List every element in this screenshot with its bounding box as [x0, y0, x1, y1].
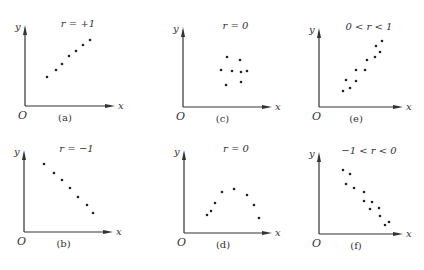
data-point: [43, 163, 46, 166]
panel-f: xyO−1 < r < 0(f): [308, 145, 412, 251]
x-axis-label: x: [118, 100, 124, 111]
panel-caption: (a): [58, 112, 72, 123]
scatter-diagram: xyOr = +1(a)xyOr = 0(c)xyO0 < r < 1(e)xy…: [0, 0, 424, 270]
data-point: [206, 214, 209, 217]
origin-label: O: [312, 110, 321, 123]
y-axis-label: y: [173, 146, 180, 157]
data-point: [239, 59, 242, 62]
panel-c: xyOr = 0(c): [172, 20, 281, 124]
x-axis-label: x: [275, 227, 281, 238]
y-axis-label: y: [14, 21, 21, 32]
data-point: [379, 51, 382, 54]
y-arrow-icon: [317, 152, 321, 162]
data-point: [89, 39, 92, 42]
data-point: [342, 90, 345, 93]
data-point: [342, 169, 345, 172]
data-point: [374, 56, 377, 59]
data-point: [240, 71, 243, 74]
data-point: [349, 173, 352, 176]
data-point: [246, 194, 249, 197]
data-point: [388, 221, 391, 224]
y-arrow-icon: [23, 25, 27, 35]
data-point: [46, 76, 49, 79]
data-point: [220, 69, 223, 72]
data-point: [53, 172, 56, 175]
origin-label: O: [17, 235, 26, 248]
panel-caption: (f): [350, 240, 362, 251]
data-point: [61, 63, 64, 66]
data-point: [69, 187, 72, 190]
data-point: [253, 204, 256, 207]
x-axis-label: x: [275, 101, 281, 112]
panel-d: xyOr = 0(d): [173, 143, 281, 250]
data-point: [246, 70, 249, 73]
y-arrow-icon: [182, 150, 186, 160]
data-point: [231, 70, 234, 73]
x-axis-label: x: [406, 228, 412, 239]
correlation-annotation: 0 < r < 1: [346, 21, 393, 32]
data-point: [366, 59, 369, 62]
correlation-annotation: r = 0: [223, 20, 250, 31]
data-point: [349, 87, 352, 90]
data-point: [384, 224, 387, 227]
panel-caption: (e): [349, 113, 363, 124]
x-arrow-icon: [393, 232, 403, 236]
panel-caption: (d): [216, 239, 230, 250]
data-point: [77, 196, 80, 199]
data-point: [375, 45, 378, 48]
y-arrow-icon: [22, 150, 26, 160]
data-point: [345, 183, 348, 186]
data-point: [225, 84, 228, 87]
x-arrow-icon: [262, 231, 272, 235]
x-arrow-icon: [393, 105, 403, 109]
correlation-annotation: r = 0: [223, 143, 250, 154]
data-point: [61, 179, 64, 182]
panel-a: xyOr = +1(a): [14, 18, 124, 123]
data-point: [233, 188, 236, 191]
x-arrow-icon: [103, 230, 113, 234]
correlation-annotation: r = −1: [59, 143, 93, 154]
panel-caption: (c): [216, 113, 230, 124]
data-point: [258, 217, 261, 220]
x-arrow-icon: [262, 105, 272, 109]
origin-label: O: [18, 109, 27, 122]
data-point: [371, 201, 374, 204]
data-point: [214, 202, 217, 205]
origin-label: O: [176, 110, 185, 123]
y-axis-label: y: [308, 148, 315, 159]
y-axis-label: y: [308, 24, 315, 35]
data-point: [355, 80, 358, 83]
panel-caption: (b): [56, 238, 70, 249]
origin-label: O: [312, 237, 321, 250]
x-arrow-icon: [105, 104, 115, 108]
data-point: [378, 207, 381, 210]
data-point: [210, 210, 213, 213]
y-axis-label: y: [172, 23, 179, 34]
data-point: [226, 56, 229, 59]
x-axis-label: x: [116, 226, 122, 237]
data-point: [240, 81, 243, 84]
data-point: [68, 55, 71, 58]
data-point: [75, 50, 78, 53]
x-axis-label: x: [406, 101, 412, 112]
data-point: [363, 200, 366, 203]
y-axis-label: y: [13, 146, 20, 157]
data-point: [82, 44, 85, 47]
data-point: [86, 204, 89, 207]
data-point: [221, 191, 224, 194]
data-point: [379, 215, 382, 218]
correlation-annotation: −1 < r < 0: [341, 145, 397, 156]
data-point: [353, 187, 356, 190]
data-point: [355, 69, 358, 72]
data-point: [381, 40, 384, 43]
data-point: [55, 69, 58, 72]
panel-b: xyOr = −1(b): [13, 143, 122, 249]
origin-label: O: [177, 236, 186, 249]
data-point: [369, 208, 372, 211]
data-point: [364, 69, 367, 72]
data-point: [92, 212, 95, 215]
correlation-annotation: r = +1: [61, 18, 95, 29]
panel-e: xyO0 < r < 1(e): [308, 21, 412, 124]
data-point: [345, 79, 348, 82]
y-arrow-icon: [317, 28, 321, 38]
